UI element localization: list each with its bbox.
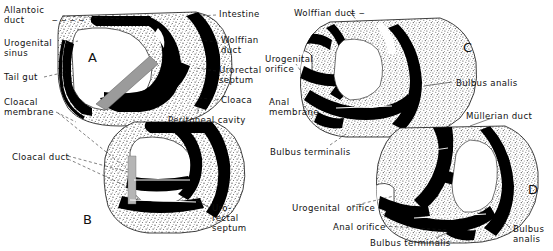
label-wolffian-duct-c: Wolffian duct [294, 9, 355, 19]
label-bulbus-analis-c: Bulbus analis [456, 79, 518, 89]
label-wolffian-duct-a: Wolffian duct [221, 36, 259, 56]
label-cloacal-duct: Cloacal duct [12, 153, 69, 163]
panel-letter-d: D [528, 182, 539, 197]
panel-letter-c: C [463, 40, 473, 55]
label-urorectal-septum-b: Uro- rectal septum [212, 204, 247, 233]
label-tail-gut: Tail gut [4, 73, 38, 83]
label-bulbus-terminalis-c: Bulbus terminalis [270, 148, 351, 158]
label-urogenital-sinus: Urogenital sinus [4, 39, 52, 59]
label-bulbus-terminalis-d: Bulbus terminalis [370, 239, 451, 249]
panel-c-art [296, 18, 477, 137]
label-bulbus-analis-d: Bulbus analis [513, 225, 544, 245]
label-cloaca: Cloaca [221, 96, 252, 106]
label-peritoneal-cavity: Peritoneal cavity [168, 116, 246, 126]
panel-letter-b: B [83, 212, 92, 227]
label-mullerian-duct: Müllerian duct [466, 112, 532, 122]
label-urorectal-septum-a: Urorectal septum [219, 66, 261, 86]
dash-run-allantoic: ‒ ‒ ‒ ‒ [52, 16, 85, 26]
panel-letter-a: A [88, 50, 97, 65]
label-cloacal-membrane: Cloacal membrane [4, 98, 54, 118]
dash-run-wolffian-c: ‒ ‒ [350, 9, 365, 19]
label-anal-orifice: Anal orifice [333, 223, 386, 233]
label-intestine: Intestine [219, 10, 260, 20]
label-urogenital-orifice-c: Urogenital orifice [265, 55, 313, 75]
panel-a-art [58, 12, 232, 126]
label-anal-membrane: Anal membrane [269, 98, 319, 118]
embryology-figure: Allantoic duct Urogenital sinus Tail gut… [0, 0, 553, 251]
label-allantoic-duct: Allantoic duct [4, 6, 44, 26]
label-urogenital-orifice-d: Urogenital orifice [292, 204, 375, 214]
